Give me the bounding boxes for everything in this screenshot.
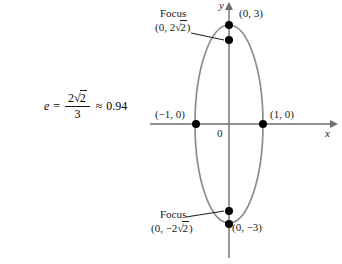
square-root-symbol: √2 (177, 222, 189, 234)
label-vertex-bottom: (0, −3) (232, 221, 262, 234)
focus-bottom-coord-prefix: (0, −2 (151, 222, 177, 234)
point-covertex-left (192, 120, 200, 128)
point-vertex-top (225, 21, 233, 29)
eccentricity-value: 0.94 (106, 99, 127, 114)
label-origin: 0 (217, 127, 223, 140)
focus-top-coord-prefix: (0, 2 (155, 21, 175, 33)
label-x-axis: x (325, 127, 330, 140)
point-focus-top (225, 36, 233, 44)
square-root-symbol: √2 (74, 91, 87, 105)
label-covertex-left: (−1, 0) (155, 108, 185, 121)
label-covertex-right: (1, 0) (270, 108, 294, 121)
label-focus-bottom: Focus (160, 208, 186, 221)
point-covertex-right (259, 120, 267, 128)
fraction-denominator: 3 (71, 107, 83, 121)
leader-line-focus-top (191, 33, 224, 40)
square-root-symbol: √2 (175, 21, 187, 33)
leader-line-focus-bottom (186, 211, 224, 217)
eccentricity-expression: e = 2√2 3 ≈ 0.94 (44, 92, 127, 120)
label-focus-bottom-coordinate: (0, −2√2) (151, 222, 193, 235)
radicand-value: 2 (80, 90, 87, 105)
label-focus-top-coordinate: (0, 2√2) (155, 21, 190, 34)
equals-sign: = (53, 99, 60, 114)
eccentricity-fraction: 2√2 3 (65, 92, 90, 120)
focus-bottom-coord-suffix: ) (189, 222, 193, 234)
focus-top-coord-suffix: ) (187, 21, 191, 33)
label-y-axis: y (219, 0, 224, 12)
label-focus-top: Focus (160, 7, 186, 20)
eccentricity-variable: e (44, 99, 49, 114)
fraction-numerator: 2√2 (65, 92, 90, 106)
point-focus-bottom (225, 207, 233, 215)
x-axis (150, 120, 338, 128)
label-vertex-top: (0, 3) (239, 7, 263, 20)
ellipse-figure: e = 2√2 3 ≈ 0.94 (0, 3) Focus (0, 2√2) (… (0, 0, 342, 264)
approximately-equals-sign: ≈ (96, 99, 103, 114)
